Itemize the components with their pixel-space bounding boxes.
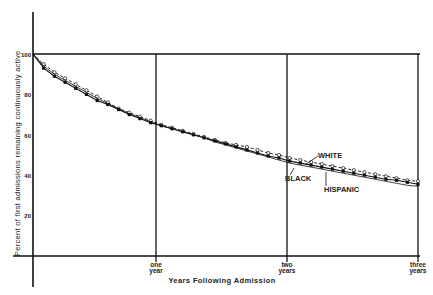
series-label-white: WHITE: [318, 151, 342, 160]
marker-black: [277, 156, 280, 159]
marker-black: [395, 179, 398, 182]
marker-white: [277, 153, 280, 156]
marker-white: [288, 156, 291, 159]
series-line-white: [33, 54, 418, 181]
marker-black: [309, 164, 312, 167]
marker-black: [352, 172, 355, 175]
marker-white: [245, 145, 248, 148]
marker-black: [320, 166, 323, 169]
marker-white: [256, 148, 259, 151]
marker-black: [363, 174, 366, 177]
series-label-hispanic: HISPANIC: [324, 185, 360, 194]
marker-white: [299, 158, 302, 161]
y-axis-label: Percent of first admissions remaining co…: [13, 50, 22, 256]
marker-white: [416, 180, 419, 183]
x-tick-three-b: years: [410, 267, 427, 275]
marker-white: [363, 171, 366, 174]
marker-white: [267, 151, 270, 154]
x-axis-label: Years Following Admission: [168, 276, 275, 285]
series-layer: [33, 54, 420, 186]
marker-white: [342, 167, 345, 170]
y-tick-80: 80: [24, 92, 31, 98]
marker-white: [384, 175, 387, 178]
x-tick-one-b: year: [149, 267, 163, 275]
marker-black: [374, 176, 377, 179]
series-line-hispanic: [33, 54, 418, 186]
marker-white: [320, 162, 323, 165]
y-tick-100: 100: [21, 52, 32, 58]
marker-white: [374, 173, 377, 176]
marker-white: [352, 169, 355, 172]
series-label-black: BLACK: [285, 174, 312, 183]
y-tick-60: 60: [24, 133, 31, 139]
marker-black: [416, 183, 419, 186]
x-tick-two-b: years: [279, 267, 296, 275]
marker-black: [288, 159, 291, 162]
y-tick-40: 40: [24, 173, 31, 179]
series-line-black: [33, 54, 418, 184]
marker-black: [299, 161, 302, 164]
marker-black: [342, 170, 345, 173]
y-tick-20: 20: [24, 213, 31, 219]
survival-chart: 100 80 60 40 20 Percent of first admissi…: [0, 0, 433, 295]
marker-black: [406, 181, 409, 184]
marker-black: [384, 178, 387, 181]
marker-black: [331, 168, 334, 171]
marker-white: [331, 165, 334, 168]
